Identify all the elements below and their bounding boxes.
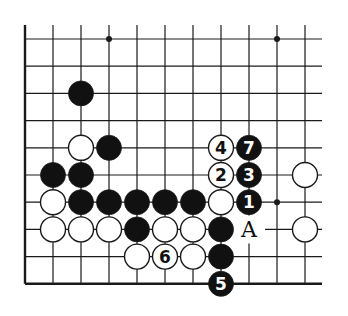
white-stone-icon — [181, 217, 206, 242]
white-stone-icon — [293, 163, 318, 188]
white-stone — [41, 190, 66, 215]
black-stone — [97, 190, 122, 215]
white-stone-icon — [181, 244, 206, 269]
star-point-icon — [106, 36, 112, 42]
black-stone-icon — [41, 163, 66, 188]
go-board: 4723165 A — [0, 0, 348, 316]
white-stone-icon — [293, 217, 318, 242]
white-stone-icon — [153, 217, 178, 242]
black-stone — [69, 190, 94, 215]
star-point-icon — [274, 36, 280, 42]
white-stone — [181, 244, 206, 269]
move-number: 5 — [215, 274, 227, 294]
white-stone-icon — [97, 217, 122, 242]
white-stone — [181, 217, 206, 242]
black-stone — [181, 190, 206, 215]
white-stone — [153, 217, 178, 242]
black-stone-icon — [125, 190, 150, 215]
white-stone — [69, 135, 94, 160]
black-stone-icon — [97, 135, 122, 160]
point-labels-layer: A — [240, 217, 258, 242]
black-stone-move-5: 5 — [209, 271, 234, 296]
black-stone — [125, 190, 150, 215]
black-stone-icon — [209, 217, 234, 242]
white-stone — [293, 163, 318, 188]
star-point-icon — [274, 199, 280, 205]
black-stone-icon — [97, 190, 122, 215]
move-number: 1 — [243, 192, 255, 212]
black-stone — [153, 190, 178, 215]
white-stone-icon — [69, 135, 94, 160]
white-stone-icon — [125, 244, 150, 269]
black-stone-icon — [153, 190, 178, 215]
move-number: 3 — [243, 165, 255, 185]
black-stone — [69, 163, 94, 188]
black-stone — [69, 81, 94, 106]
black-stone — [209, 244, 234, 269]
white-stone — [97, 217, 122, 242]
black-stone-icon — [181, 190, 206, 215]
black-stone — [209, 217, 234, 242]
black-stone-icon — [125, 217, 150, 242]
white-stone — [209, 190, 234, 215]
black-stone-move-1: 1 — [237, 190, 262, 215]
white-stone — [125, 244, 150, 269]
move-number: 7 — [243, 138, 255, 158]
white-stone-move-6: 6 — [153, 244, 178, 269]
black-stone — [41, 163, 66, 188]
white-stone-move-2: 2 — [209, 163, 234, 188]
black-stone — [125, 217, 150, 242]
black-stone-icon — [69, 163, 94, 188]
black-stone-move-7: 7 — [237, 135, 262, 160]
white-stone — [293, 217, 318, 242]
point-label-A: A — [240, 217, 258, 242]
white-stone-move-4: 4 — [209, 135, 234, 160]
black-stone-icon — [69, 190, 94, 215]
white-stone — [41, 217, 66, 242]
white-stone-icon — [41, 190, 66, 215]
black-stone-icon — [209, 244, 234, 269]
go-diagram: 4723165 A — [0, 0, 348, 316]
white-stone-icon — [69, 217, 94, 242]
move-number: 2 — [215, 165, 227, 185]
black-stone-move-3: 3 — [237, 163, 262, 188]
white-stone-icon — [41, 217, 66, 242]
black-stone — [97, 135, 122, 160]
board-grid — [25, 25, 322, 284]
white-stone-icon — [209, 190, 234, 215]
white-stone — [69, 217, 94, 242]
stones-layer: 4723165 — [41, 81, 318, 296]
black-stone-icon — [69, 81, 94, 106]
move-number: 6 — [159, 247, 171, 267]
move-number: 4 — [215, 138, 227, 158]
